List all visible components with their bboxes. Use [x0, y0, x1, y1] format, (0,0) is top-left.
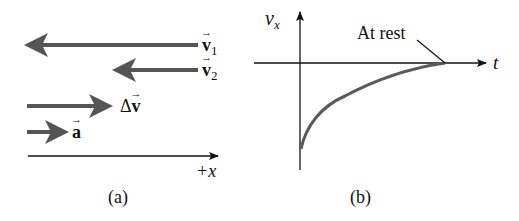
- v2-label: v2: [202, 61, 218, 82]
- a-label: a: [72, 123, 81, 141]
- t-label: t: [493, 53, 498, 72]
- vx-label: vx: [265, 8, 280, 31]
- caption-b: (b): [350, 188, 371, 206]
- figure-canvas: [0, 0, 519, 221]
- plus-x-label: +x: [196, 162, 216, 180]
- velocity-curve: [301, 63, 445, 149]
- caption-a: (a): [108, 188, 128, 206]
- at-rest-label: At rest: [357, 24, 406, 42]
- at-rest-leader: [417, 40, 445, 63]
- delta-v-label: Δv: [120, 97, 141, 115]
